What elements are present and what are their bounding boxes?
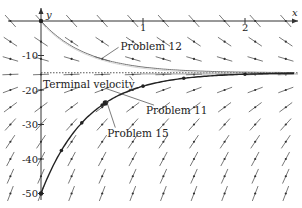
direction-dot bbox=[285, 158, 287, 160]
y-tick-label: -50 bbox=[22, 188, 38, 199]
direction-dot bbox=[9, 192, 11, 194]
direction-dot bbox=[193, 175, 195, 177]
direction-dot bbox=[254, 175, 256, 177]
problem-15-initial-point bbox=[39, 191, 43, 195]
direction-dot bbox=[71, 73, 73, 75]
direction-dot bbox=[193, 89, 195, 91]
direction-dot bbox=[285, 106, 287, 108]
x-axis-arrow-icon bbox=[292, 19, 298, 24]
direction-dot bbox=[162, 158, 164, 160]
direction-dot bbox=[285, 41, 287, 43]
direction-dot bbox=[224, 58, 226, 60]
direction-dot bbox=[71, 175, 73, 177]
direction-dot bbox=[193, 141, 195, 143]
y-tick-label: -40 bbox=[22, 154, 38, 165]
direction-dot bbox=[254, 58, 256, 60]
direction-dot bbox=[162, 192, 164, 194]
annotation-label: Terminal velocity bbox=[43, 78, 135, 90]
direction-dot bbox=[285, 58, 287, 60]
direction-dot bbox=[71, 58, 73, 60]
direction-dot bbox=[285, 123, 287, 125]
direction-dot bbox=[9, 141, 11, 143]
direction-dot bbox=[254, 123, 256, 125]
direction-dot bbox=[101, 158, 103, 160]
direction-dot bbox=[224, 89, 226, 91]
direction-dot bbox=[9, 106, 11, 108]
direction-dot bbox=[193, 192, 195, 194]
direction-dot bbox=[132, 175, 134, 177]
direction-dot bbox=[224, 175, 226, 177]
y-axis-arrow-icon bbox=[39, 8, 44, 14]
direction-dot bbox=[254, 141, 256, 143]
direction-dot bbox=[162, 58, 164, 60]
direction-dot bbox=[224, 106, 226, 108]
direction-dot bbox=[193, 123, 195, 125]
direction-dot bbox=[224, 41, 226, 43]
problem-15-point bbox=[141, 84, 145, 88]
annotation-label: Problem 15 bbox=[107, 127, 168, 139]
direction-dot bbox=[254, 192, 256, 194]
direction-dot bbox=[162, 123, 164, 125]
direction-dot bbox=[9, 73, 11, 75]
direction-dot bbox=[71, 141, 73, 143]
direction-field-chart: xy12-10-20-30-40-50 Problem 12Terminal v… bbox=[0, 0, 302, 208]
annotation-arrow bbox=[102, 47, 118, 58]
direction-dot bbox=[132, 192, 134, 194]
problem-15-point bbox=[80, 121, 84, 125]
direction-dot bbox=[285, 141, 287, 143]
direction-dot bbox=[71, 123, 73, 125]
direction-dot bbox=[193, 158, 195, 160]
y-tick-label: -20 bbox=[22, 85, 38, 96]
direction-dot bbox=[162, 89, 164, 91]
problem-15-point bbox=[60, 149, 64, 153]
direction-dot bbox=[132, 73, 134, 75]
direction-dot bbox=[193, 41, 195, 43]
direction-dot bbox=[71, 158, 73, 160]
problem-15-point bbox=[243, 72, 247, 76]
direction-dot bbox=[132, 158, 134, 160]
annotation-label: Problem 12 bbox=[121, 40, 182, 52]
direction-dot bbox=[254, 89, 256, 91]
direction-dot bbox=[224, 158, 226, 160]
direction-dot bbox=[224, 123, 226, 125]
problem-12-initial-point bbox=[39, 19, 43, 23]
direction-dot bbox=[162, 141, 164, 143]
direction-dot bbox=[285, 192, 287, 194]
direction-dot bbox=[9, 58, 11, 60]
direction-dot bbox=[254, 41, 256, 43]
direction-dot bbox=[224, 141, 226, 143]
x-tick-label: 1 bbox=[140, 22, 146, 33]
y-tick-label: -30 bbox=[22, 119, 38, 130]
direction-dot bbox=[285, 89, 287, 91]
x-axis-label: x bbox=[292, 7, 298, 18]
direction-dot bbox=[101, 123, 103, 125]
direction-dot bbox=[101, 192, 103, 194]
direction-dot bbox=[224, 192, 226, 194]
direction-dot bbox=[9, 158, 11, 160]
direction-dot bbox=[101, 141, 103, 143]
direction-dot bbox=[101, 73, 103, 75]
direction-dot bbox=[254, 158, 256, 160]
direction-dot bbox=[254, 106, 256, 108]
direction-dot bbox=[101, 41, 103, 43]
direction-dot bbox=[132, 106, 134, 108]
direction-dot bbox=[71, 41, 73, 43]
direction-dot bbox=[285, 175, 287, 177]
direction-dot bbox=[71, 192, 73, 194]
direction-dot bbox=[162, 175, 164, 177]
direction-dot bbox=[9, 89, 11, 91]
direction-dot bbox=[132, 58, 134, 60]
annotation-label: Problem 11 bbox=[146, 104, 207, 116]
direction-dot bbox=[193, 58, 195, 60]
direction-dot bbox=[9, 175, 11, 177]
problem-15-point bbox=[182, 76, 186, 80]
y-tick-label: -10 bbox=[22, 50, 38, 61]
annotations: Problem 12Terminal velocityProblem 11Pro… bbox=[43, 40, 207, 138]
annotation-arrow bbox=[106, 100, 115, 127]
y-axis-label: y bbox=[45, 9, 52, 20]
x-tick-label: 2 bbox=[242, 22, 248, 33]
direction-dot bbox=[132, 123, 134, 125]
direction-dot bbox=[132, 141, 134, 143]
direction-dot bbox=[101, 175, 103, 177]
direction-dot bbox=[71, 106, 73, 108]
